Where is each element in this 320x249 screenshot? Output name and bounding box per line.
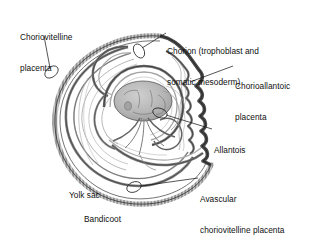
label-line-1: Avascular bbox=[200, 194, 284, 204]
embryo bbox=[114, 81, 172, 121]
label-line-1: Choriovitelline bbox=[20, 32, 72, 42]
label-line-2: placenta bbox=[235, 112, 290, 122]
leader-marker-chorion bbox=[131, 42, 147, 60]
label-allantois: Allantois bbox=[214, 125, 246, 176]
label-line-1: Chorioallantoic bbox=[235, 81, 290, 91]
label-line-1: Chorion (trophoblast and bbox=[167, 46, 259, 56]
figure-caption: Bandicoot bbox=[84, 214, 121, 224]
label-line-2: choriovitelline placenta bbox=[200, 225, 284, 235]
label-choriovitelline-placenta: Choriovitelline placenta bbox=[20, 12, 72, 94]
label-line-1: Yolk sac bbox=[69, 190, 100, 200]
label-line-2: placenta bbox=[20, 63, 72, 73]
figure-canvas: Choriovitelline placenta Chorion (tropho… bbox=[0, 0, 320, 249]
label-line-1: Allantois bbox=[214, 145, 246, 155]
label-avascular-choriovitelline-placenta: Avascular choriovitelline placenta bbox=[200, 174, 284, 249]
